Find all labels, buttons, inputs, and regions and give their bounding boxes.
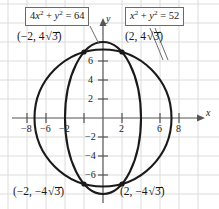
point-label-bottom-left: (−2, −4√3): [13, 186, 64, 198]
x-tick-label--6: −6: [40, 124, 51, 134]
y-axis-label: y: [106, 14, 110, 24]
y-tick-label--6: −6: [85, 170, 96, 180]
equation-circle-equals: =: [160, 10, 166, 21]
point-label-top-left: (−2, 4√3): [17, 31, 61, 43]
equation-circle-plus: +: [141, 10, 147, 21]
leader-ellipse: [90, 26, 99, 44]
math-figure: 4x2 + y2 = 64 x2 + y2 = 52 (−2, 4√3) (2,…: [0, 0, 219, 209]
y-tick-label--2: −2: [85, 132, 96, 142]
x-tick-label-6: 6: [157, 124, 162, 134]
point-label-top-right-open: (2, 4: [125, 30, 146, 42]
y-tick-label-6: 6: [88, 56, 93, 66]
point-label-bottom-right: (2, −4√3): [120, 186, 164, 198]
x-tick-label-8: 8: [176, 124, 181, 134]
x-tick-label--2: −2: [59, 124, 70, 134]
x-tick-label--8: −8: [21, 124, 32, 134]
x-axis-arrow: [197, 115, 205, 122]
equation-box-ellipse: 4x2 + y2 = 64: [25, 7, 89, 26]
intersection-dot-top-right: [119, 49, 124, 54]
radical-icon: √3: [148, 186, 161, 198]
y-tick-label--4: −4: [85, 151, 96, 161]
equation-circle-rhs: 52: [169, 10, 180, 21]
point-label-bottom-right-open: (2, −4: [120, 185, 148, 197]
intersection-dot-bottom-left: [81, 181, 86, 186]
equation-ellipse-exp-y: 2: [59, 9, 63, 17]
y-tick-label-4: 4: [88, 75, 93, 85]
y-tick-label-2: 2: [88, 94, 93, 104]
radical-icon: √3: [146, 31, 159, 43]
radical-icon: √3: [47, 186, 60, 198]
point-label-top-right: (2, 4√3): [125, 31, 163, 43]
x-tick-label-2: 2: [119, 124, 124, 134]
point-label-top-left-open: (−2, 4: [17, 30, 45, 42]
equation-ellipse-exp-x: 2: [40, 9, 44, 17]
axis-lines: [12, 24, 197, 203]
equation-circle-exp-y: 2: [154, 9, 158, 17]
radical-icon: √3: [45, 31, 58, 43]
equation-ellipse-rhs: 64: [74, 10, 85, 21]
equation-circle-exp-x: 2: [135, 9, 139, 17]
equation-box-circle: x2 + y2 = 52: [125, 7, 184, 26]
x-axis-label: x: [206, 108, 210, 118]
equation-ellipse-equals: =: [65, 10, 71, 21]
intersection-dot-top-left: [81, 49, 86, 54]
point-label-bottom-left-open: (−2, −4: [13, 185, 47, 197]
equation-ellipse-plus: +: [46, 10, 52, 21]
